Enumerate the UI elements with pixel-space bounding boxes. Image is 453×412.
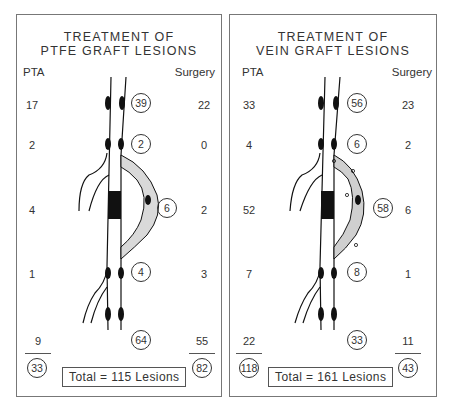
surgery-count: 6 bbox=[393, 204, 423, 216]
total-lesions-box: Total = 161 Lesions bbox=[268, 367, 393, 387]
total-count: 6 bbox=[347, 134, 367, 154]
total-count: 4 bbox=[131, 262, 151, 282]
total-count: 58 bbox=[373, 198, 393, 218]
pta-count: 17 bbox=[17, 99, 47, 111]
total-count: 64 bbox=[131, 330, 151, 350]
surgery-count: 1 bbox=[393, 268, 423, 280]
sum-divider bbox=[236, 353, 262, 354]
pta-sum: 33 bbox=[27, 358, 47, 378]
surgery-sum: 43 bbox=[398, 358, 418, 378]
total-count: 56 bbox=[347, 93, 367, 113]
pta-count: 1 bbox=[17, 268, 47, 280]
pta-count: 52 bbox=[234, 204, 264, 216]
pta-count: 33 bbox=[234, 99, 264, 111]
surgery-count: 2 bbox=[393, 139, 423, 151]
total-lesions-box: Total = 115 Lesions bbox=[62, 367, 186, 387]
total-count: 39 bbox=[131, 93, 151, 113]
pta-sum: 118 bbox=[239, 358, 259, 378]
pta-count: 22 bbox=[234, 335, 264, 347]
surgery-count: 22 bbox=[189, 99, 219, 111]
surgery-count: 3 bbox=[189, 268, 219, 280]
total-count: 33 bbox=[347, 330, 367, 350]
sum-divider bbox=[189, 353, 215, 354]
surgery-count: 2 bbox=[189, 204, 219, 216]
vein-graft-panel: TREATMENT OF VEIN GRAFT LESIONS PTA Surg… bbox=[229, 14, 437, 397]
pta-count: 7 bbox=[234, 268, 264, 280]
surgery-sum: 82 bbox=[192, 358, 212, 378]
total-count: 2 bbox=[131, 134, 151, 154]
sum-divider bbox=[395, 353, 421, 354]
pta-count: 2 bbox=[17, 139, 47, 151]
total-count: 8 bbox=[347, 262, 367, 282]
pta-count: 4 bbox=[17, 204, 47, 216]
pta-count: 4 bbox=[234, 139, 264, 151]
ptfe-graft-panel: TREATMENT OF PTFE GRAFT LESIONS PTA Surg… bbox=[16, 14, 222, 397]
surgery-count: 23 bbox=[393, 99, 423, 111]
surgery-count: 0 bbox=[189, 139, 219, 151]
total-count: 6 bbox=[157, 198, 177, 218]
pta-count: 9 bbox=[23, 335, 53, 347]
surgery-count: 55 bbox=[187, 335, 217, 347]
surgery-count: 11 bbox=[393, 335, 423, 347]
sum-divider bbox=[25, 353, 51, 354]
